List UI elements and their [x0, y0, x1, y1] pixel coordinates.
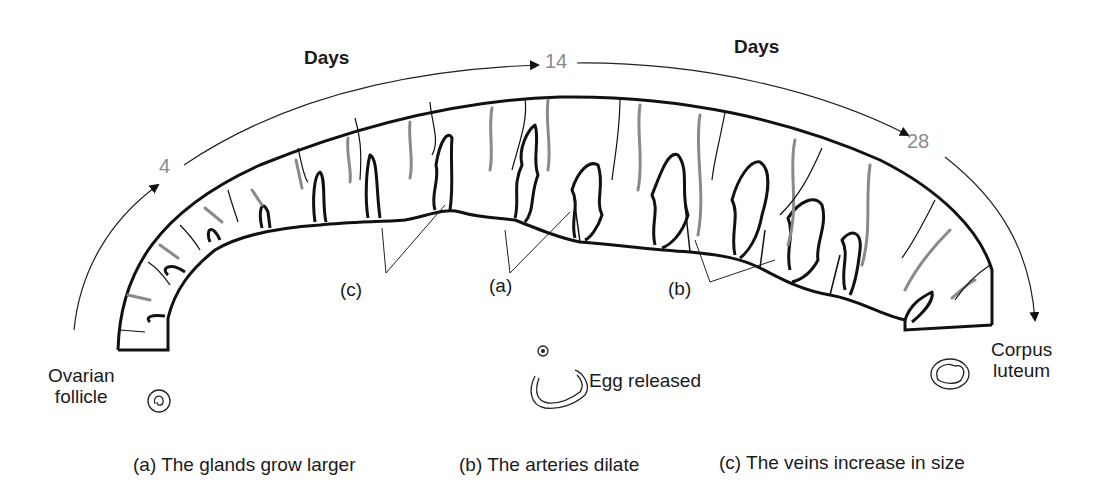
day-marker-14: 14	[545, 50, 567, 72]
pointer-label-a: (a)	[489, 276, 512, 297]
legend-item-b: (b) The arteries dilate	[459, 455, 639, 476]
legend-item-a: (a) The glands grow larger	[133, 455, 355, 476]
stage-label-corpus-luteum: Corpus luteum	[991, 340, 1052, 382]
stage-label-egg-released: Egg released	[589, 371, 701, 392]
endometrium-illustration	[0, 0, 1119, 492]
stage-label-ovarian-follicle: Ovarian follicle	[48, 366, 115, 408]
pointer-label-c: (c)	[340, 280, 362, 301]
corpus-luteum-icon	[931, 359, 969, 389]
endometrium-diagram: Days Days 4 14 28 (c) (a) (b) Ovarian fo…	[0, 0, 1119, 492]
day-marker-4: 4	[159, 155, 170, 177]
ovarian-follicle-icon	[148, 390, 170, 412]
legend-item-c: (c) The veins increase in size	[719, 453, 965, 474]
stage-label-line1: Corpus	[991, 340, 1052, 361]
day-marker-28: 28	[907, 130, 929, 152]
pointer-label-b: (b)	[668, 279, 691, 300]
days-label-left: Days	[304, 48, 349, 69]
days-label-right: Days	[734, 37, 779, 58]
stage-label-line2: luteum	[991, 361, 1052, 382]
stage-label-line1: Ovarian	[48, 366, 115, 387]
veins	[120, 98, 990, 332]
egg-released-icon	[531, 346, 587, 408]
arteries	[128, 100, 975, 300]
endometrium-band	[118, 97, 992, 350]
pointer-lines	[382, 205, 775, 282]
timeline-arrows	[74, 63, 1035, 330]
stage-label-line2: follicle	[48, 387, 115, 408]
